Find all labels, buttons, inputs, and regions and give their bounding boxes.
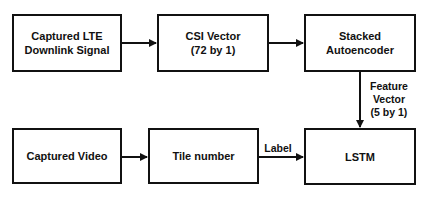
edge-label-feature-vector: Feature Vector (5 by 1) [366, 80, 412, 119]
node-label-line: CSI Vector [185, 29, 240, 43]
node-captured-lte-signal: Captured LTE Downlink Signal [12, 14, 122, 72]
node-lstm: LSTM [304, 128, 416, 185]
edge-label-line: Vector [366, 93, 412, 106]
node-label-line: Captured LTE [25, 29, 110, 43]
node-label-line: Downlink Signal [25, 43, 110, 57]
edge-label-label: Label [262, 142, 294, 155]
node-csi-vector: CSI Vector (72 by 1) [157, 14, 269, 72]
edge-label-line: Feature [366, 80, 412, 93]
node-tile-number: Tile number [148, 128, 259, 184]
node-label-line: Tile number [172, 149, 234, 163]
node-label-line: LSTM [345, 150, 375, 164]
node-label-line: Autoencoder [326, 43, 394, 57]
edge-label-line: (5 by 1) [366, 106, 412, 119]
node-label-line: Stacked [326, 29, 394, 43]
node-stacked-autoencoder: Stacked Autoencoder [304, 14, 416, 72]
node-label-line: (72 by 1) [185, 43, 240, 57]
node-label-line: Captured Video [26, 149, 107, 163]
node-captured-video: Captured Video [12, 128, 122, 184]
